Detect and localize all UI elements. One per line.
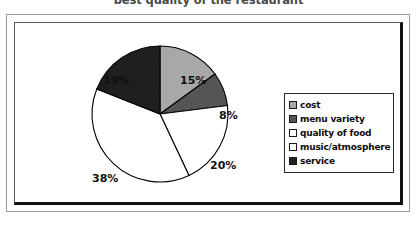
legend-label-quality-of-food: quality of food (300, 128, 371, 138)
legend-swatch-service (289, 157, 297, 165)
data-label-menu-variety: 8% (219, 109, 238, 122)
legend-item-menu-variety[interactable]: menu variety (289, 112, 389, 126)
legend-label-music-atmosphere: music/atmosphere (300, 142, 390, 152)
legend-swatch-music-atmosphere (289, 143, 297, 151)
legend-label-menu-variety: menu variety (300, 114, 365, 124)
data-label-music-atmosphere: 38% (92, 172, 118, 185)
data-label-quality-of-food: 20% (210, 159, 236, 172)
legend-label-cost: cost (300, 100, 320, 110)
legend-swatch-menu-variety (289, 115, 297, 123)
page-title: best quality of the restaurant (0, 0, 417, 7)
data-label-cost: 15% (180, 74, 206, 87)
legend-swatch-quality-of-food (289, 129, 297, 137)
legend-item-cost[interactable]: cost (289, 98, 389, 112)
legend-label-service: service (300, 156, 335, 166)
data-label-service: 19% (103, 74, 129, 87)
chart-plot-area: 15% 8% 20% 38% 19% cost menu variety qua… (14, 22, 403, 205)
legend-item-quality-of-food[interactable]: quality of food (289, 126, 389, 140)
legend-item-service[interactable]: service (289, 154, 389, 168)
chart-legend: cost menu variety quality of food music/… (284, 93, 394, 173)
legend-swatch-cost (289, 101, 297, 109)
legend-item-music-atmosphere[interactable]: music/atmosphere (289, 140, 389, 154)
